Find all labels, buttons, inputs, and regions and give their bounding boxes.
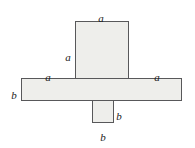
dimension-label-b-right-text: b [116,111,122,122]
dimension-label-a-top: a [101,13,107,24]
dimension-label-a-band-left-text: a [45,72,51,83]
dimension-label-b-left-text: b [11,90,17,101]
dimension-label-a-band-right: a [157,72,163,83]
dimension-label-a-band-right-text: a [154,72,160,83]
dimension-label-a-top-text: a [98,13,104,24]
dimension-label-b-right: b [119,111,125,122]
dimension-label-a-left-text: a [65,52,71,63]
dimension-label-b-bottom-text: b [100,132,106,143]
dimension-label-a-band-left: a [48,72,54,83]
net-diagram-figure: a a a a b b b [0,0,195,148]
dimension-label-a-left: a [68,52,74,63]
dimension-label-b-left: b [14,90,20,101]
lower-small-square [92,100,114,123]
dimension-label-b-bottom: b [103,132,109,143]
upper-vertical-rectangle [75,21,129,79]
